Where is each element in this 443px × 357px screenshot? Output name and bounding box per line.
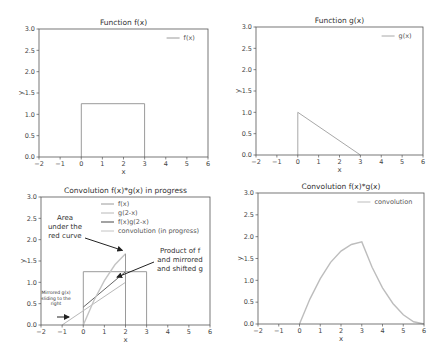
- y-tick-label: 1.0: [27, 279, 37, 287]
- x-axis-label: x: [123, 336, 127, 344]
- x-tick-label: 1: [100, 160, 104, 168]
- x-tick-label: 3: [358, 158, 362, 166]
- y-axis-label: y: [234, 89, 242, 93]
- legend: f(x)g(2-x)f(x)g(2-x)convolution (in prog…: [101, 200, 199, 235]
- annotation-area: Area: [57, 214, 73, 222]
- x-tick-label: 6: [208, 328, 212, 336]
- y-tick-label: 3.0: [25, 25, 35, 33]
- annotation-product: and mirrored: [157, 256, 202, 264]
- x-tick-label: 0: [81, 328, 85, 336]
- annotation-product: Product of f: [160, 247, 201, 255]
- series-line: [298, 112, 361, 155]
- x-tick-label: 2: [121, 160, 125, 168]
- y-tick-label: 1.0: [25, 111, 35, 119]
- legend-entry: f(x): [184, 34, 195, 42]
- y-tick-label: 1.5: [244, 255, 254, 263]
- y-tick-label: 1.0: [242, 109, 252, 117]
- x-tick-label: 1: [318, 327, 322, 335]
- annotation-mirrored: right: [51, 301, 62, 306]
- y-tick-label: 2.5: [27, 215, 37, 223]
- y-tick-label: 0.0: [27, 321, 37, 329]
- subplot-f: Function f(x)−2−101234560.00.51.01.52.02…: [17, 18, 210, 176]
- x-tick-label: −2: [36, 328, 46, 336]
- x-tick-label: 1: [317, 158, 321, 166]
- y-tick-label: 0.5: [244, 298, 254, 306]
- series-line: [83, 272, 146, 325]
- x-tick-label: 0: [297, 327, 301, 335]
- legend-entry: g(2-x): [118, 209, 138, 217]
- y-tick-label: 0.5: [242, 130, 252, 138]
- x-tick-label: −2: [251, 158, 261, 166]
- y-axis-label: y: [19, 259, 27, 263]
- axes-frame: [258, 193, 424, 324]
- series-line: [62, 282, 125, 325]
- y-tick-label: 1.0: [244, 277, 254, 285]
- arrow-icon: [85, 238, 122, 250]
- legend-entry: g(x): [399, 32, 412, 40]
- x-tick-label: 4: [164, 160, 168, 168]
- chart-title: Function f(x): [100, 18, 147, 27]
- y-tick-label: 0.0: [244, 320, 254, 328]
- x-tick-label: 4: [166, 328, 170, 336]
- x-tick-label: −1: [57, 328, 67, 336]
- y-tick-label: 3.0: [244, 189, 254, 197]
- y-tick-label: 0.5: [27, 300, 37, 308]
- x-tick-label: 5: [185, 160, 189, 168]
- subplot-convolution: Convolution f(x)*g(x)−2−101234560.00.51.…: [236, 182, 426, 343]
- x-tick-label: −1: [55, 160, 65, 168]
- y-tick-label: 2.0: [244, 233, 254, 241]
- y-tick-label: 0.0: [25, 153, 35, 161]
- arrow-icon: [117, 262, 154, 277]
- y-tick-label: 0.5: [25, 132, 35, 140]
- x-tick-label: 4: [380, 327, 384, 335]
- chart-title: Convolution f(x)*g(x): [302, 182, 381, 191]
- chart-title: Convolution f(x)*g(x) in progress: [64, 186, 187, 195]
- annotation-mirrored: sliding to the: [41, 296, 71, 301]
- legend: convolution: [357, 198, 412, 206]
- chart-title: Function g(x): [315, 16, 364, 25]
- annotation-mirrored: Mirrored g(x): [41, 290, 70, 295]
- x-tick-label: −2: [253, 327, 263, 335]
- series-line: [300, 242, 425, 324]
- legend: g(x): [382, 32, 412, 40]
- y-tick-label: 2.0: [27, 236, 37, 244]
- series-line: [83, 272, 125, 307]
- y-tick-label: 2.0: [242, 66, 252, 74]
- x-tick-label: 5: [401, 327, 405, 335]
- x-tick-label: 6: [206, 160, 210, 168]
- x-tick-label: 3: [360, 327, 364, 335]
- subplot-convolution-progress: Convolution f(x)*g(x) in progress−2−1012…: [19, 186, 212, 344]
- axes-frame: [256, 27, 423, 155]
- y-axis-label: y: [236, 256, 244, 260]
- x-tick-label: 5: [187, 328, 191, 336]
- y-tick-label: 0.0: [242, 151, 252, 159]
- x-tick-label: −1: [274, 327, 284, 335]
- y-tick-label: 3.0: [27, 193, 37, 201]
- legend: f(x): [167, 34, 195, 42]
- legend-entry: convolution (in progress): [118, 227, 199, 235]
- x-tick-label: −1: [272, 158, 282, 166]
- x-tick-label: 5: [400, 158, 404, 166]
- annotation-product: and shifted g: [157, 265, 203, 273]
- x-axis-label: x: [121, 168, 125, 176]
- y-tick-label: 2.5: [25, 47, 35, 55]
- x-tick-label: 2: [123, 328, 127, 336]
- x-tick-label: 4: [379, 158, 383, 166]
- x-tick-label: 6: [421, 158, 425, 166]
- x-tick-label: 3: [143, 160, 147, 168]
- x-tick-label: 2: [339, 327, 343, 335]
- legend-entry: f(x)g(2-x): [118, 218, 149, 226]
- x-tick-label: 1: [102, 328, 106, 336]
- x-axis-label: x: [337, 166, 341, 174]
- y-tick-label: 2.5: [244, 211, 254, 219]
- axes-frame: [39, 29, 208, 157]
- annotation-area: red curve: [48, 232, 81, 240]
- legend-entry: f(x): [118, 200, 129, 208]
- x-tick-label: 2: [337, 158, 341, 166]
- y-tick-label: 2.5: [242, 45, 252, 53]
- annotation-area: under the: [48, 223, 82, 231]
- legend-entry: convolution: [374, 198, 412, 206]
- series-line: [81, 104, 144, 157]
- subplot-g: Function g(x)−2−101234560.00.51.01.52.02…: [234, 16, 425, 174]
- x-tick-label: 3: [145, 328, 149, 336]
